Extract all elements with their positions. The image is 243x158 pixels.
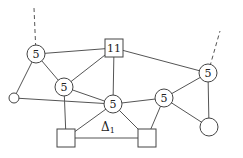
circle-node-shape — [9, 93, 19, 103]
node-n_top: 11 — [105, 39, 123, 57]
node-n_fl — [9, 93, 19, 103]
node-n_c: 5 — [104, 95, 122, 113]
node-label: 5 — [61, 81, 68, 94]
edges-layer — [14, 8, 220, 138]
node-label: 5 — [110, 98, 117, 111]
node-label: 5 — [161, 92, 168, 105]
square-node-shape — [138, 129, 156, 147]
region-label-symbol: Δ — [101, 120, 110, 134]
edge-n_tl-n_top — [36, 48, 114, 54]
node-label: 5 — [205, 67, 212, 80]
node-n_lm: 5 — [55, 78, 73, 96]
node-n_br — [200, 118, 218, 136]
node-n_tl: 5 — [27, 45, 45, 63]
square-node-shape — [57, 129, 75, 147]
edge-n_top-n_fr — [114, 48, 208, 73]
node-n_bm — [138, 129, 156, 147]
node-label: 5 — [33, 48, 40, 61]
region-label-delta-1: Δ1 — [101, 120, 115, 135]
graph-diagram: 5115555 Δ1 — [0, 0, 243, 158]
node-n_fr: 5 — [199, 64, 217, 82]
region-label-subscript: 1 — [110, 126, 115, 135]
node-n_bl — [57, 129, 75, 147]
node-label: 11 — [107, 42, 121, 55]
circle-node-shape — [200, 118, 218, 136]
node-n_rc: 5 — [155, 89, 173, 107]
